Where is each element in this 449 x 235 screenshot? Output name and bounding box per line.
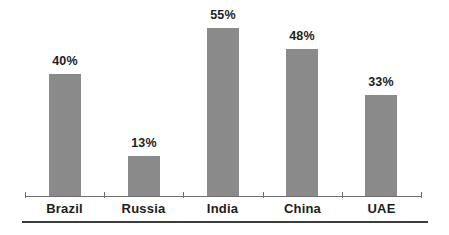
axis-tick [421, 192, 422, 198]
bar-uae [365, 95, 397, 196]
bar-brazil [49, 74, 81, 196]
value-label-brazil: 40% [33, 54, 97, 69]
bottom-rule [22, 221, 428, 223]
category-label-brazil: Brazil [25, 201, 104, 216]
value-label-uae: 33% [349, 75, 413, 90]
bar-russia [128, 156, 160, 196]
value-label-india: 55% [191, 8, 255, 23]
bar-india [207, 28, 239, 196]
value-label-russia: 13% [112, 136, 176, 151]
category-label-china: China [263, 201, 342, 216]
axis-tick [183, 192, 184, 198]
bar-chart: 40%Brazil13%Russia55%India48%China33%UAE [0, 0, 449, 235]
category-label-uae: UAE [342, 201, 421, 216]
axis-tick [104, 192, 105, 198]
value-label-china: 48% [270, 29, 334, 44]
x-axis-line [25, 196, 421, 197]
bar-china [286, 49, 318, 196]
axis-tick [25, 192, 26, 198]
axis-tick [342, 192, 343, 198]
category-label-russia: Russia [104, 201, 183, 216]
axis-tick [263, 192, 264, 198]
category-label-india: India [183, 201, 262, 216]
